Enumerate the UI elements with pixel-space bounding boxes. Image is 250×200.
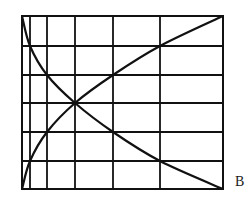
grid-diagram bbox=[0, 0, 250, 200]
grid-lines bbox=[22, 16, 223, 189]
corner-label-b: B bbox=[235, 175, 244, 189]
